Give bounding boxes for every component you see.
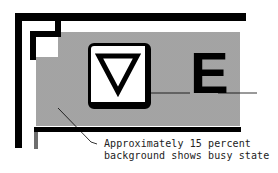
annotation-line-1: Approximately 15 percent (104, 138, 269, 150)
busy-state-annotation: Approximately 15 percent background show… (104, 138, 269, 162)
annotation-line-2: background shows busy state (104, 150, 269, 162)
